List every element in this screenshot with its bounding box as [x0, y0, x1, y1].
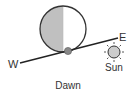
moon-shaded-half	[40, 6, 63, 52]
dawn-moon-diagram: W E Sun Dawn	[0, 0, 136, 94]
sun-icon	[104, 42, 124, 62]
west-label: W	[8, 58, 19, 70]
caption-dawn: Dawn	[55, 80, 81, 91]
observer-dot	[64, 47, 71, 54]
sun-label: Sun	[105, 62, 123, 73]
moon	[40, 6, 86, 52]
east-label: E	[119, 31, 126, 43]
